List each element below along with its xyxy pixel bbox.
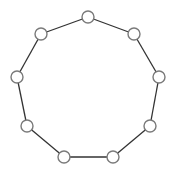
edge-n8-n0 <box>41 17 88 34</box>
graph-node-n8 <box>35 28 47 40</box>
graph-node-n0 <box>82 11 94 23</box>
edge-n0-n1 <box>88 17 134 34</box>
edge-n3-n4 <box>113 126 150 157</box>
graph-node-n5 <box>58 151 70 163</box>
edge-n5-n6 <box>27 126 64 157</box>
nodes-layer <box>11 11 165 163</box>
graph-node-n6 <box>21 120 33 132</box>
cycle-graph-diagram <box>0 0 178 179</box>
graph-node-n3 <box>144 120 156 132</box>
graph-node-n4 <box>107 151 119 163</box>
edge-n6-n7 <box>17 77 27 126</box>
edge-n2-n3 <box>150 77 159 126</box>
graph-node-n2 <box>153 71 165 83</box>
edge-n1-n2 <box>134 34 159 77</box>
edge-n7-n8 <box>17 34 41 77</box>
graph-node-n1 <box>128 28 140 40</box>
graph-node-n7 <box>11 71 23 83</box>
